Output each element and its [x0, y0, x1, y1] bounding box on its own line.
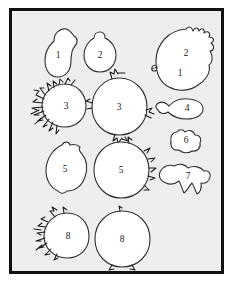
- object-3-hairy: 3: [31, 78, 86, 134]
- object-5-lemon-label: 5: [63, 164, 68, 174]
- object-5-lemon: 5: [46, 142, 87, 193]
- object-3-hairy-label: 3: [64, 101, 69, 111]
- object-7-jagged-label: 7: [186, 171, 191, 181]
- object-8-jagged-label: 8: [66, 231, 71, 241]
- object-8-plain-label: 8: [120, 234, 125, 244]
- object-3-tufted-label: 3: [117, 102, 122, 112]
- object-1-pear: 1: [45, 29, 77, 77]
- object-6-lobed: 6: [171, 130, 201, 153]
- object-4-tailed-outline: [156, 99, 203, 119]
- object-2-stemmed-label: 2: [98, 50, 103, 60]
- object-7-jagged: 7: [159, 164, 210, 194]
- object-4-tailed-label: 4: [185, 103, 190, 113]
- object-5-spiked: 5: [94, 137, 156, 198]
- object-4-tailed: 4: [156, 99, 203, 119]
- object-2-1-large: 2 1: [152, 27, 214, 90]
- object-2-1-large-outline: [152, 27, 214, 90]
- object-5-spiked-label: 5: [119, 165, 124, 175]
- object-3-tufted: 3: [86, 69, 154, 143]
- object-1-pear-label: 1: [56, 50, 61, 60]
- object-8-plain: 8: [95, 206, 150, 270]
- object-1-pear-outline: [45, 29, 77, 77]
- figure-frame: 1 2 2 1: [9, 8, 224, 274]
- object-2-1-large-label: 2: [184, 48, 189, 58]
- object-6-lobed-label: 6: [184, 135, 189, 145]
- figure-canvas: 1 2 2 1: [12, 11, 221, 271]
- object-8-jagged: 8: [34, 207, 89, 260]
- object-2-1-large-label-secondary: 1: [178, 68, 183, 78]
- object-2-stemmed: 2: [84, 32, 116, 72]
